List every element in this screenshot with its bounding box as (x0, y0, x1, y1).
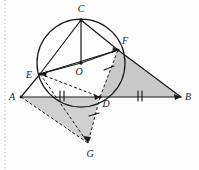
vertex-dot-E (38, 72, 41, 75)
label-A: A (8, 91, 16, 102)
geometry-canvas: A B C D E F G O (0, 0, 199, 170)
figure-background (0, 0, 199, 170)
center-dot-O (79, 61, 82, 64)
vertex-dot-F (116, 48, 119, 51)
vertex-dot-A (20, 96, 23, 99)
label-B: B (185, 91, 191, 102)
label-G: G (86, 148, 93, 159)
label-C: C (78, 3, 85, 14)
vertex-dot-C (79, 18, 82, 21)
geometry-figure: A B C D E F G O (0, 0, 199, 170)
label-O: O (75, 66, 82, 77)
label-D: D (101, 98, 110, 109)
label-E: E (25, 69, 32, 80)
label-F: F (121, 35, 129, 46)
vertex-dot-D (99, 96, 102, 99)
